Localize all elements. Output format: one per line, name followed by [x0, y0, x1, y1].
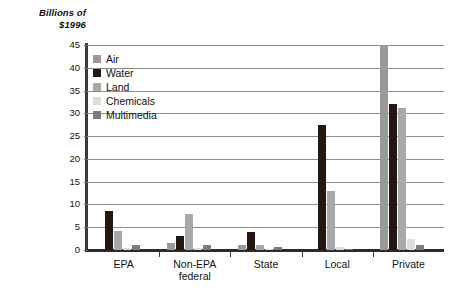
- y-tick-label: 15: [54, 177, 80, 187]
- legend-swatch-icon: [93, 97, 101, 105]
- bar-state-water: [247, 232, 255, 250]
- bar-private-chemicals: [407, 239, 415, 250]
- bar-epa-chemicals: [123, 248, 131, 250]
- y-tick-label: 10: [54, 199, 80, 209]
- legend-swatch-icon: [93, 83, 101, 91]
- legend-item-chemicals[interactable]: Chemicals: [93, 94, 157, 107]
- gridline: [88, 45, 444, 46]
- bar-non-epa-federal-air: [167, 243, 175, 250]
- bar-private-air: [380, 45, 388, 250]
- y-tick-label: 30: [54, 108, 80, 118]
- y-tick-label: 35: [54, 86, 80, 96]
- x-tick-label: Local: [302, 258, 373, 270]
- bar-chart: Billions of $1996 051015202530354045 EPA…: [0, 0, 450, 292]
- legend-item-label: Land: [106, 81, 129, 93]
- bar-local-multimedia: [345, 249, 353, 250]
- y-tick-label: 5: [54, 222, 80, 232]
- y-tick-mark: [84, 91, 88, 92]
- y-axis-title: Billions of $1996: [0, 7, 86, 30]
- legend-item-air[interactable]: Air: [93, 52, 157, 65]
- y-tick-mark: [84, 45, 88, 46]
- bar-epa-land: [114, 231, 122, 250]
- bar-state-land: [256, 245, 264, 250]
- bar-non-epa-federal-multimedia: [203, 245, 211, 250]
- x-axis-separator: [373, 252, 374, 257]
- y-tick-mark: [84, 182, 88, 183]
- x-axis-separator: [302, 252, 303, 257]
- bar-epa-water: [105, 211, 113, 250]
- y-tick-mark: [84, 113, 88, 114]
- y-tick-label: 40: [54, 63, 80, 73]
- y-tick-mark: [84, 136, 88, 137]
- x-tick-label: State: [230, 258, 301, 270]
- bar-state-air: [238, 245, 246, 250]
- y-tick-label: 45: [54, 40, 80, 50]
- bar-non-epa-federal-land: [185, 214, 193, 250]
- bar-private-land: [398, 108, 406, 250]
- legend-item-label: Chemicals: [106, 95, 155, 107]
- x-axis-separator: [159, 252, 160, 257]
- bar-private-multimedia: [416, 245, 424, 250]
- legend-item-label: Water: [106, 67, 134, 79]
- legend: AirWaterLandChemicalsMultimedia: [93, 52, 157, 121]
- y-tick-label: 0: [54, 245, 80, 255]
- x-tick-label: Private: [373, 258, 444, 270]
- y-tick-mark: [84, 68, 88, 69]
- bar-non-epa-federal-chemicals: [194, 248, 202, 250]
- bar-state-chemicals: [265, 249, 273, 250]
- y-tick-mark: [84, 227, 88, 228]
- bar-local-land: [327, 191, 335, 250]
- y-tick-mark: [84, 159, 88, 160]
- bar-state-multimedia: [274, 247, 282, 250]
- legend-swatch-icon: [93, 69, 101, 77]
- y-tick-mark: [84, 204, 88, 205]
- legend-item-multimedia[interactable]: Multimedia: [93, 108, 157, 121]
- x-tick-label: Non-EPA federal: [159, 258, 230, 282]
- legend-item-water[interactable]: Water: [93, 66, 157, 79]
- bar-local-water: [318, 125, 326, 250]
- legend-swatch-icon: [93, 111, 101, 119]
- x-axis-separator: [230, 252, 231, 257]
- x-tick-label: EPA: [88, 258, 159, 270]
- bar-local-chemicals: [336, 247, 344, 250]
- bar-private-water: [389, 104, 397, 250]
- legend-item-land[interactable]: Land: [93, 80, 157, 93]
- bar-non-epa-federal-water: [176, 236, 184, 250]
- bar-epa-multimedia: [132, 245, 140, 250]
- y-tick-label: 25: [54, 131, 80, 141]
- legend-item-label: Air: [106, 53, 119, 65]
- legend-swatch-icon: [93, 55, 101, 63]
- y-tick-mark: [84, 250, 88, 251]
- legend-item-label: Multimedia: [106, 109, 157, 121]
- y-tick-label: 20: [54, 154, 80, 164]
